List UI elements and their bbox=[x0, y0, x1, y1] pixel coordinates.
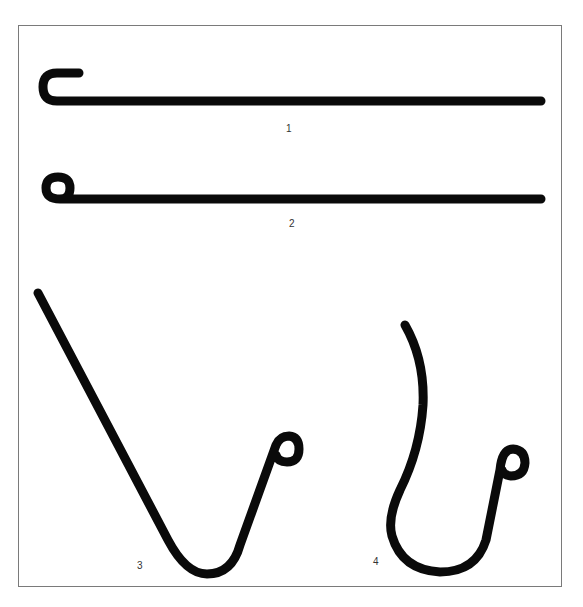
hook-4-label: 4 bbox=[373, 557, 379, 567]
hook-3-shape bbox=[38, 293, 299, 574]
hook-drawings bbox=[0, 0, 583, 607]
hook-4-shape bbox=[391, 325, 525, 572]
hook-1-label: 1 bbox=[286, 124, 292, 134]
hook-2-label: 2 bbox=[289, 219, 295, 229]
hook-2-shape bbox=[46, 177, 541, 199]
hook-diagram: 1 2 3 4 bbox=[0, 0, 583, 607]
hook-3-label: 3 bbox=[137, 561, 143, 571]
hook-1-shape bbox=[43, 73, 541, 101]
